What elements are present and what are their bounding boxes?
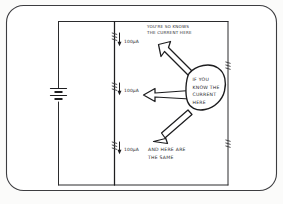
balloon-line4: HERE: [193, 100, 206, 105]
bottom-note-line2: THE SAME: [147, 155, 174, 160]
outer-frame: [7, 6, 277, 191]
balloon-line3: CURRENT: [193, 92, 217, 97]
bottom-note-line1: AND HERE ARE: [148, 147, 186, 152]
current-label-top: 100μA: [124, 39, 139, 44]
balloon-line1: IF YOU: [193, 77, 210, 82]
figure-canvas: 100μA 100μA 100μA YOU'RE SO KNOWS THE CU…: [0, 0, 283, 204]
top-note-line2: THE CURRENT HERE: [146, 30, 192, 35]
current-label-middle: 100μA: [124, 88, 139, 93]
top-note-line1: YOU'RE SO KNOWS: [146, 24, 189, 29]
balloon-line2: KNOW THE: [193, 85, 220, 90]
current-label-bottom: 100μA: [124, 147, 139, 152]
